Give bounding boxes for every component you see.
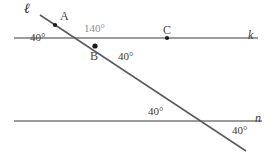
angle-label-lower-right: 40° [232,125,247,136]
point-label-a: A [60,10,69,22]
geometry-diagram: ℓ k n A B C 40° 140° 40° 40° 40° [0,0,276,158]
angle-label-below-b: 40° [118,51,133,62]
point-b-dot [92,43,97,48]
line-label-l: ℓ [24,2,30,16]
angle-label-upper-left: 40° [30,32,45,43]
point-label-b: B [90,50,98,62]
angle-label-lower-left: 40° [148,106,163,117]
angle-label-upper-right: 140° [84,23,105,34]
line-label-n: n [255,112,261,124]
point-label-c: C [163,24,171,36]
point-a-dot [53,23,57,27]
line-l-transversal [40,15,246,151]
line-label-k: k [248,29,253,41]
